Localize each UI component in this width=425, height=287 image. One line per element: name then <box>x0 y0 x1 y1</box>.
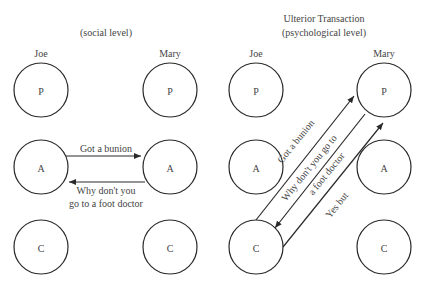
left-mary-a-label: A <box>160 163 180 174</box>
diagram-canvas <box>0 0 425 287</box>
right-joe-a-label: A <box>246 163 266 174</box>
right-joe-p-label: P <box>246 86 266 97</box>
left-joe-a-label: A <box>31 163 51 174</box>
right-mary-a-label: A <box>374 163 394 174</box>
social-response-label-2: go to a foot doctor <box>69 198 143 209</box>
right-panel-title: Ulterior Transaction <box>284 13 365 24</box>
left-mary-name: Mary <box>159 48 181 59</box>
left-mary-p-label: P <box>160 86 180 97</box>
social-response-label-1: Why don't you <box>76 185 135 196</box>
right-mary-name: Mary <box>373 48 395 59</box>
left-joe-p-label: P <box>31 86 51 97</box>
left-joe-c-label: C <box>31 243 51 254</box>
left-joe-name: Joe <box>34 48 47 59</box>
left-panel-title: (social level) <box>80 27 132 38</box>
right-mary-p-label: P <box>374 86 394 97</box>
right-joe-name: Joe <box>249 48 262 59</box>
right-panel-subtitle: (psychological level) <box>282 27 366 38</box>
left-mary-c-label: C <box>160 243 180 254</box>
right-joe-c-label: C <box>246 243 266 254</box>
right-mary-c-label: C <box>374 243 394 254</box>
social-stimulus-label: Got a bunion <box>80 143 132 154</box>
